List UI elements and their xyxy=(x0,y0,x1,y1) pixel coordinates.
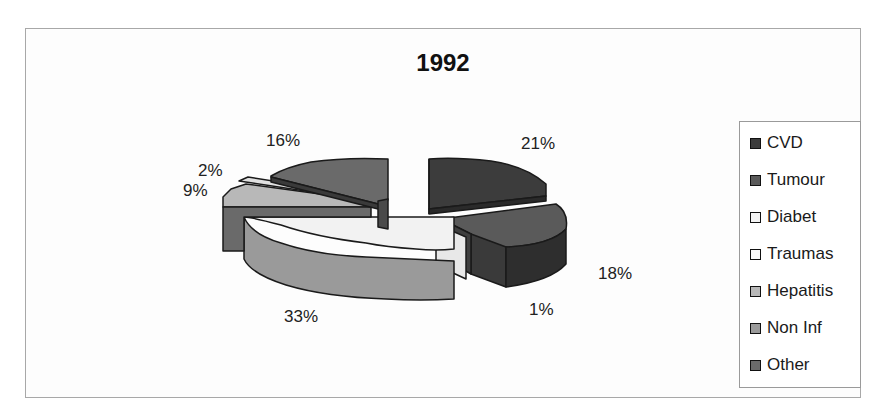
legend-swatch-icon xyxy=(750,286,761,297)
legend-item-hepatitis: Hepatitis xyxy=(750,280,833,302)
pie-chart xyxy=(26,29,862,399)
legend-swatch-icon xyxy=(750,138,761,149)
chart-area: 1992 xyxy=(25,28,861,398)
label-non-inf-pct: 33% xyxy=(284,307,318,327)
label-traumas-pct: 2% xyxy=(198,161,223,181)
legend-item-non-inf: Non Inf xyxy=(750,317,822,339)
legend-item-other: Other xyxy=(750,354,810,376)
legend-item-traumas: Traumas xyxy=(750,243,833,265)
legend-swatch-icon xyxy=(750,249,761,260)
legend-item-tumour: Tumour xyxy=(750,169,825,191)
label-diabet-pct: 1% xyxy=(529,300,554,320)
legend-swatch-icon xyxy=(750,175,761,186)
legend: CVD Tumour Diabet Traumas Hepatitis Non … xyxy=(739,121,861,388)
slice-non-inf xyxy=(244,217,454,300)
legend-item-diabet: Diabet xyxy=(750,206,816,228)
label-other-pct: 16% xyxy=(266,131,300,151)
legend-swatch-icon xyxy=(750,360,761,371)
legend-swatch-icon xyxy=(750,212,761,223)
legend-item-cvd: CVD xyxy=(750,132,803,154)
label-tumour-pct: 18% xyxy=(598,264,632,284)
label-hepatitis-pct: 9% xyxy=(183,181,208,201)
slice-cvd xyxy=(429,158,546,214)
legend-swatch-icon xyxy=(750,323,761,334)
label-cvd-pct: 21% xyxy=(521,134,555,154)
